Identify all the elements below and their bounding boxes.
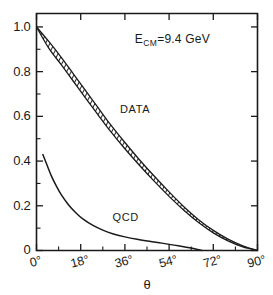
x-tick-label: 54° [158,253,179,271]
plot-frame [37,14,258,251]
data-band-upper-edge [37,27,258,251]
x-axis-title: θ [143,277,150,292]
energy-symbol: E [135,32,143,46]
curve-label-qcd: QCD [113,211,139,223]
y-tick-label: 1.0 [13,19,30,34]
y-tick-label: 0.2 [13,198,30,213]
x-tick-label: 18° [69,253,90,271]
data-band-hatch-fill [37,27,258,251]
figure-container: DATAQCD1.00.80.60.40.200°18°36°54°72°90°… [0,0,273,295]
y-tick-label: 0.4 [13,153,30,168]
energy-subscript: CM [143,38,157,48]
x-tick-label: 0° [28,253,43,269]
series-data-band [37,27,258,251]
curve-label-data: DATA [120,103,150,115]
energy-value: =9.4 GeV [157,32,210,46]
angular-distribution-chart: DATAQCD1.00.80.60.40.200°18°36°54°72°90°… [0,0,273,295]
energy-annotation: ECM=9.4 GeV [135,32,210,49]
y-tick-label: 0.8 [13,64,30,79]
x-tick-label: 36° [113,253,134,271]
tick-marks [37,14,258,251]
x-tick-label: 90° [246,253,267,271]
x-tick-label: 72° [202,253,223,271]
data-band-lower-edge [37,27,258,251]
y-tick-label: 0.6 [13,108,30,123]
